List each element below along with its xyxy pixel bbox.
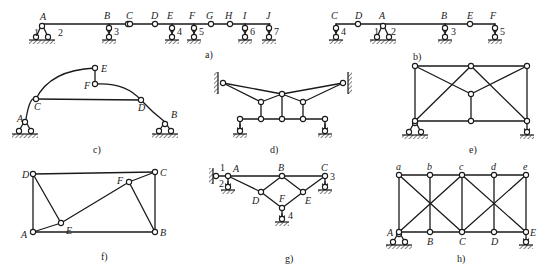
link-number-label: 4 [341, 26, 346, 37]
ground-hatch-icon [519, 245, 533, 249]
node-label: E [304, 195, 311, 206]
hinge-node-icon [191, 25, 196, 30]
hinge-node-icon [220, 80, 225, 85]
bar-member [61, 182, 129, 223]
link-number-label: 3 [330, 171, 335, 182]
link-number-label: 2 [58, 27, 63, 38]
node-label: A [20, 229, 28, 240]
hinge-node-icon [106, 25, 111, 30]
hinge-node-icon [156, 128, 161, 133]
bar-member [33, 174, 61, 223]
hinge-node-icon [22, 119, 27, 124]
hinge-node-icon [225, 184, 230, 189]
node-label: I [242, 10, 247, 21]
hinge-node-icon [322, 184, 327, 189]
panel-caption: c) [93, 144, 101, 156]
node-label: a [396, 161, 401, 172]
hinge-node-icon [152, 169, 157, 174]
link-number-label: 3 [114, 26, 119, 37]
structural-diagrams-figure: ABCDEFGHIJ1234567a) CDABEF41235b) EFCDAB… [0, 0, 547, 269]
panel-c-three-hinged-arch: EFCDABc) [12, 63, 178, 156]
hinge-node-icon [92, 81, 97, 86]
link-number-label: 1 [34, 27, 39, 38]
hinge-node-icon [279, 205, 284, 210]
bar-member [471, 66, 527, 94]
node-label: F [83, 80, 91, 91]
node-label: F [188, 10, 196, 21]
hinge-node-icon [523, 172, 528, 177]
node-label: c [459, 161, 464, 172]
hinge-node-icon [30, 171, 35, 176]
ground-hatch-icon [221, 190, 235, 194]
hinge-node-icon [92, 65, 97, 70]
bar-member [223, 83, 282, 94]
ground-hatch-icon [233, 134, 247, 138]
node-label: B [441, 10, 447, 21]
ground-hatch-icon [152, 134, 178, 138]
bar-member [223, 83, 261, 102]
hinge-node-icon [333, 25, 338, 30]
hinge-node-icon [340, 80, 345, 85]
node-label: e [523, 161, 528, 172]
hinge-node-icon [468, 118, 473, 123]
link-number-label: 1 [374, 26, 379, 37]
hinge-node-icon [58, 220, 63, 225]
link-number-label: 4 [288, 210, 293, 221]
hinge-node-icon [459, 172, 464, 177]
hinge-node-icon [412, 118, 417, 123]
hinge-node-icon [213, 173, 218, 178]
bar-member [36, 99, 141, 100]
hinge-node-icon [322, 173, 327, 178]
node-label: F [489, 10, 497, 21]
node-label: E [100, 63, 107, 74]
hinge-node-icon [333, 34, 338, 39]
node-label: A [16, 113, 24, 124]
panel-caption: f) [101, 251, 108, 263]
hinge-node-icon [152, 229, 157, 234]
hinge-node-icon [258, 116, 263, 121]
node-label: B [427, 236, 433, 247]
node-label: D [490, 236, 499, 247]
node-label: F [116, 175, 124, 186]
panel-d-cable-frame: d) [214, 72, 352, 156]
node-label: A [39, 11, 47, 22]
node-label: D [150, 10, 159, 21]
hinge-node-icon [380, 23, 385, 28]
node-label: D [137, 102, 146, 113]
panel-a-multispan-beam: ABCDEFGHIJ1234567a) [29, 10, 279, 61]
panel-b-multispan-beam: CDABEF41235b) [329, 10, 505, 63]
hinge-node-icon [523, 229, 528, 234]
bar-member [129, 172, 155, 182]
link-number-label: 5 [500, 26, 505, 37]
hinge-node-icon [442, 25, 447, 30]
arch-member [95, 84, 165, 122]
hinge-node-icon [427, 172, 432, 177]
hinge-node-icon [279, 216, 284, 221]
link-number-label: 1 [220, 162, 225, 173]
hinge-node-icon [279, 91, 284, 96]
hinge-node-icon [266, 34, 271, 39]
hinge-node-icon [396, 172, 401, 177]
node-label: C [34, 101, 41, 112]
hinge-node-icon [227, 21, 232, 26]
bar-member [282, 192, 303, 208]
hinge-node-icon [30, 229, 35, 234]
node-label: J [266, 10, 271, 21]
hinge-node-icon [169, 34, 174, 39]
hinge-node-icon [491, 229, 496, 234]
node-label: b [427, 161, 432, 172]
ground-hatch-icon [275, 222, 289, 226]
node-label: C [459, 236, 466, 247]
panel-caption: g) [285, 253, 293, 265]
panel-f-linkage-frame: DCFEABf) [20, 167, 167, 263]
bar-member [33, 223, 61, 232]
hinge-node-icon [225, 173, 230, 178]
bar-member [261, 176, 282, 192]
node-label: C [331, 10, 338, 21]
hinge-node-icon [127, 21, 132, 26]
node-label: B [104, 10, 110, 21]
hinge-node-icon [266, 25, 271, 30]
hinge-node-icon [168, 128, 173, 133]
bar-member [282, 83, 343, 94]
hinge-node-icon [106, 34, 111, 39]
